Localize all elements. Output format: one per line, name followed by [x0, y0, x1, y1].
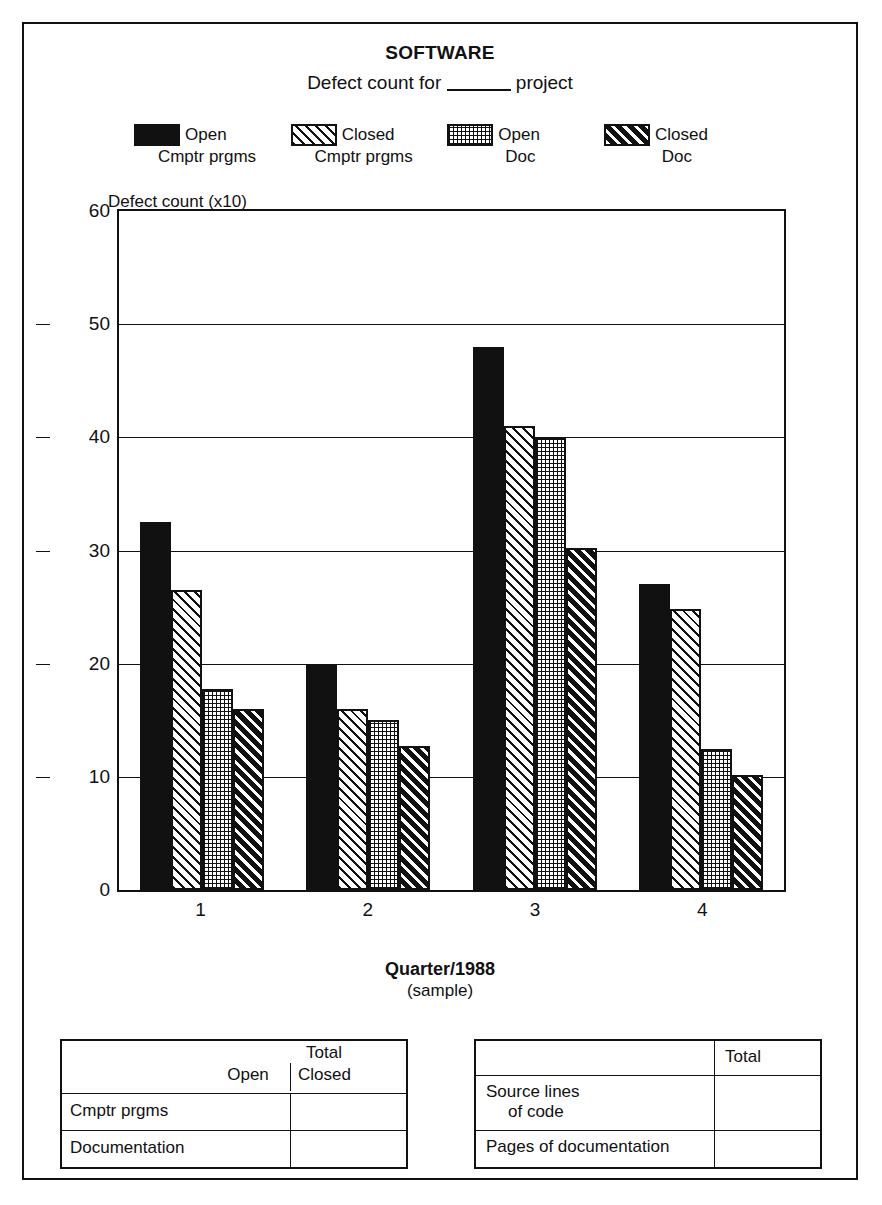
table-left-header-open: Open [208, 1065, 288, 1085]
bar-4-series-1 [670, 609, 701, 890]
table-right-row-0-name-line1: Source lines [486, 1082, 704, 1102]
table-left-header: Total Open Closed [62, 1041, 406, 1093]
table-right-row-0-value[interactable] [714, 1076, 820, 1130]
table-right-row-1-value[interactable] [714, 1131, 820, 1167]
x-tick-label: 3 [505, 899, 565, 921]
bar-group-3 [452, 211, 618, 890]
legend-label-3: Closed [655, 124, 708, 146]
legend-sublabel-3: Doc [604, 147, 754, 167]
table-left-row-0-name: Cmptr prgms [62, 1094, 290, 1130]
bar-3-series-1 [504, 426, 535, 890]
y-tick-mark [36, 551, 50, 552]
y-tick-label: 30 [50, 540, 110, 562]
legend-item-1: Closed Cmptr prgms [291, 124, 441, 167]
legend-sublabel-0: Cmptr prgms [134, 147, 284, 167]
totals-table-left: Total Open Closed Cmptr prgms Documentat… [60, 1039, 408, 1169]
table-left-header-total: Total [238, 1043, 410, 1063]
bar-2-series-3 [399, 746, 430, 890]
bar-1-series-0 [140, 522, 171, 890]
table-right-row-0-name-line2: of code [486, 1102, 704, 1122]
legend-label-2: Open [498, 124, 540, 146]
y-tick-mark [36, 777, 50, 778]
x-axis-sublabel: (sample) [24, 981, 856, 1001]
bar-3-series-2 [535, 437, 566, 890]
y-tick-mark [36, 324, 50, 325]
table-right-header-blank [476, 1041, 714, 1075]
legend-item-2: Open Doc [447, 124, 597, 167]
legend-sublabel-1: Cmptr prgms [291, 147, 441, 167]
table-row: Source lines of code [476, 1075, 820, 1130]
chart-subtitle: Defect count for project [24, 72, 856, 94]
legend-swatch-solid-black-icon [134, 124, 180, 146]
legend-label-1: Closed [342, 124, 395, 146]
bar-group-2 [285, 211, 451, 890]
y-tick-mark [36, 664, 50, 665]
totals-table-right: Total Source lines of code Pages of docu… [474, 1039, 822, 1169]
table-row: Documentation [62, 1130, 406, 1167]
bar-1-series-2 [202, 689, 233, 890]
table-right-header: Total [476, 1041, 820, 1075]
legend-label-0: Open [185, 124, 227, 146]
y-tick-mark [36, 437, 50, 438]
table-row: Pages of documentation [476, 1130, 820, 1167]
legend-swatch-diagonal-hatch-icon [291, 124, 337, 146]
x-tick-label: 1 [171, 899, 231, 921]
table-left-header-closed: Closed [298, 1065, 398, 1085]
table-left-header-divider [290, 1063, 291, 1091]
legend-sublabel-2: Doc [447, 147, 597, 167]
bar-group-4 [618, 211, 784, 890]
x-tick-label: 4 [672, 899, 732, 921]
bar-groups [119, 211, 784, 890]
table-left-row-0-value[interactable] [290, 1094, 406, 1130]
chart-card: SOFTWARE Defect count for project Open C… [22, 22, 858, 1180]
plot-area [117, 209, 786, 892]
bar-3-series-3 [566, 548, 597, 890]
bar-2-series-0 [306, 664, 337, 890]
bar-2-series-1 [337, 709, 368, 890]
legend-swatch-black-diagonal-hatch-icon [604, 124, 650, 146]
subtitle-suffix: project [516, 72, 573, 93]
bar-4-series-0 [639, 584, 670, 890]
table-row: Cmptr prgms [62, 1093, 406, 1130]
table-right-header-total: Total [714, 1041, 820, 1075]
subtitle-prefix: Defect count for [307, 72, 441, 93]
bar-4-series-2 [701, 749, 732, 890]
table-left-row-1-value[interactable] [290, 1131, 406, 1167]
bar-3-series-0 [473, 347, 504, 890]
y-tick-label: 50 [50, 313, 110, 335]
bar-1-series-3 [233, 709, 264, 890]
y-tick-label: 0 [50, 879, 110, 901]
x-axis-label: Quarter/1988 [24, 959, 856, 980]
y-tick-label: 60 [50, 200, 110, 222]
legend-item-0: Open Cmptr prgms [134, 124, 284, 167]
chart-legend: Open Cmptr prgms Closed Cmptr prgms Open… [134, 124, 754, 167]
bar-1-series-1 [171, 590, 202, 890]
fill-in-blank[interactable] [447, 89, 511, 91]
page-title: SOFTWARE [24, 42, 856, 64]
plot-area-wrap: 0102030405060 1234 [117, 209, 786, 892]
bar-4-series-3 [732, 775, 763, 890]
bar-2-series-2 [368, 720, 399, 890]
table-right-row-1-name: Pages of documentation [476, 1131, 714, 1167]
y-tick-label: 40 [50, 426, 110, 448]
y-tick-label: 20 [50, 653, 110, 675]
legend-item-3: Closed Doc [604, 124, 754, 167]
x-tick-label: 2 [338, 899, 398, 921]
bar-group-1 [119, 211, 285, 890]
table-left-row-1-name: Documentation [62, 1131, 290, 1167]
legend-swatch-dot-grid-icon [447, 124, 493, 146]
table-right-row-0-name: Source lines of code [476, 1076, 714, 1130]
y-tick-label: 10 [50, 766, 110, 788]
